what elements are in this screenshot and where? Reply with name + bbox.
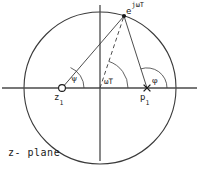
label-angle-psi: ψ <box>71 75 77 83</box>
zero-marker-icon <box>59 85 66 92</box>
vector-pole-to-point <box>124 16 147 88</box>
z-plane-svg-canvas <box>0 0 199 169</box>
z-plane-diagram: ejωT z1 p1 ψ ωT φ z- plane <box>0 0 199 169</box>
label-zero-subscript: 1 <box>59 99 63 107</box>
label-angle-phi: φ <box>152 77 158 85</box>
label-pole-subscript: 1 <box>145 99 149 107</box>
label-unit-circle-point: ejωT <box>126 5 144 16</box>
label-z-plane-caption: z- plane <box>8 148 60 158</box>
label-angle-omega-t: ωT <box>104 78 113 86</box>
label-pole: p1 <box>140 93 149 104</box>
label-unit-circle-point-exponent: jωT <box>131 1 144 9</box>
label-zero: z1 <box>54 93 63 104</box>
